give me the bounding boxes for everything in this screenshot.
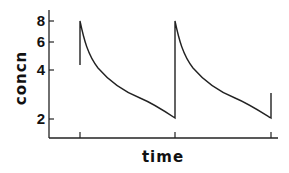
chart: 8 6 4 2 time concn	[0, 0, 289, 173]
y-tick-label-4: 4	[37, 61, 46, 78]
concentration-line	[80, 21, 271, 118]
y-axis-label: concn	[12, 51, 30, 105]
y-ticks	[49, 21, 54, 119]
y-tick-label-6: 6	[37, 33, 45, 50]
x-axis-label: time	[142, 148, 184, 166]
y-tick-label-8: 8	[37, 12, 45, 29]
x-ticks	[80, 132, 271, 138]
y-tick-label-2: 2	[37, 110, 45, 127]
